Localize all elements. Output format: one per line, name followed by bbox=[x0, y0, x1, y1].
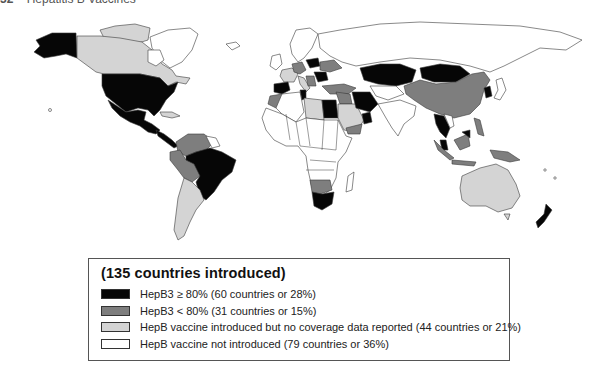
region-syria-iraq bbox=[336, 92, 352, 104]
legend-item-not-introduced: HepB vaccine not introduced (79 countrie… bbox=[101, 336, 509, 353]
region-java bbox=[452, 160, 476, 166]
region-alaska bbox=[34, 33, 77, 58]
swatch-black bbox=[101, 289, 130, 299]
region-ukraine bbox=[320, 60, 342, 72]
region-oman bbox=[362, 112, 372, 124]
region-pacific-islet bbox=[544, 169, 546, 171]
region-botswana-namibia bbox=[310, 180, 332, 194]
region-cuba bbox=[160, 112, 180, 118]
region-korea bbox=[484, 86, 492, 98]
legend-item-hepb3-lt80: HepB3 < 80% (31 countries or 15%) bbox=[101, 303, 509, 320]
legend-title: (135 countries introduced) bbox=[101, 265, 509, 281]
region-egypt bbox=[322, 100, 338, 118]
legend-label: HepB vaccine introduced but no coverage … bbox=[140, 321, 521, 333]
world-map bbox=[0, 0, 591, 255]
legend-item-introduced-no-data: HepB vaccine introduced but no coverage … bbox=[101, 319, 509, 336]
region-tasmania bbox=[504, 214, 510, 220]
region-south-africa bbox=[312, 192, 334, 210]
swatch-dark-gray bbox=[101, 306, 130, 316]
region-balkans bbox=[306, 76, 316, 86]
region-scandinavia bbox=[290, 28, 318, 62]
region-australia bbox=[460, 164, 520, 212]
map-legend: (135 countries introduced) HepB3 ≥ 80% (… bbox=[88, 258, 510, 361]
legend-label: HepB3 < 80% (31 countries or 15%) bbox=[140, 305, 316, 317]
region-japan bbox=[494, 78, 506, 100]
region-romania bbox=[314, 72, 328, 82]
swatch-light-gray bbox=[101, 322, 130, 332]
region-philippines bbox=[474, 118, 484, 136]
region-india bbox=[378, 100, 416, 136]
region-hawaii bbox=[49, 109, 52, 112]
region-iceland bbox=[226, 42, 240, 50]
region-poland bbox=[306, 58, 320, 68]
legend-item-hepb3-ge80: HepB3 ≥ 80% (60 countries or 28%) bbox=[101, 286, 509, 303]
region-central-asia bbox=[370, 86, 404, 100]
region-central-america bbox=[156, 130, 178, 148]
region-west-africa bbox=[262, 108, 352, 196]
region-spain bbox=[274, 82, 290, 94]
region-madagascar bbox=[346, 172, 354, 192]
region-pacific-islet bbox=[554, 177, 556, 179]
legend-label: HepB3 ≥ 80% (60 countries or 28%) bbox=[140, 288, 316, 300]
region-russia bbox=[318, 22, 582, 72]
region-libya bbox=[304, 98, 324, 120]
region-uk bbox=[270, 54, 282, 70]
region-germany bbox=[292, 62, 306, 74]
region-kazakhstan bbox=[360, 64, 416, 86]
legend-label: HepB vaccine not introduced (79 countrie… bbox=[140, 338, 389, 350]
region-new-zealand bbox=[536, 204, 552, 228]
swatch-white bbox=[101, 339, 130, 349]
region-png bbox=[490, 150, 520, 162]
